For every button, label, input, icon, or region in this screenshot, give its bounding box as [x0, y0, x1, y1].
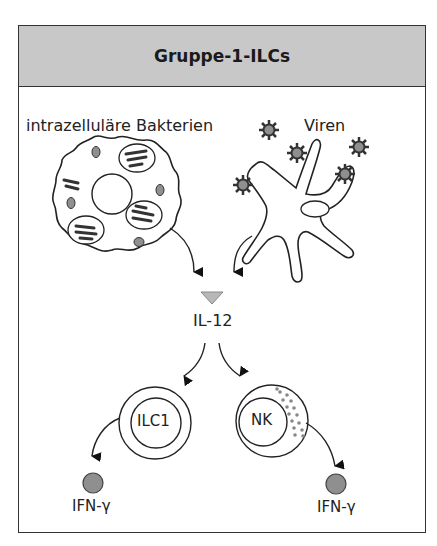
virus-icon: [259, 120, 279, 140]
ilc1-label: ILC1: [137, 412, 170, 430]
virus-icon: [233, 175, 253, 195]
diagram-artwork: [0, 0, 437, 546]
macrophage-icon: [53, 136, 181, 251]
ifn-gamma-right-icon: [326, 474, 346, 494]
ifn-gamma-right-label: IFN-γ: [317, 498, 356, 516]
il12-triangle-icon: [201, 292, 223, 304]
nk-label: NK: [251, 411, 272, 429]
arrow-il12-to-ilc1: [184, 343, 205, 376]
arrow-bacteria-to-il12: [170, 228, 194, 272]
arrow-nk-to-ifn: [306, 423, 335, 466]
dendritic-cell-icon: [243, 140, 354, 282]
il12-label: IL-12: [193, 311, 232, 330]
ifn-gamma-left-icon: [83, 473, 103, 493]
virus-icon: [349, 137, 369, 157]
virus-label: Viren: [304, 116, 345, 135]
arrow-il12-to-nk: [219, 343, 240, 376]
virus-icon: [335, 164, 355, 184]
ifn-gamma-left-label: IFN-γ: [72, 497, 111, 515]
arrow-ilc1-to-ifn: [92, 418, 120, 456]
bacteria-label: intrazelluläre Bakterien: [26, 116, 213, 135]
virus-icon: [287, 143, 307, 163]
